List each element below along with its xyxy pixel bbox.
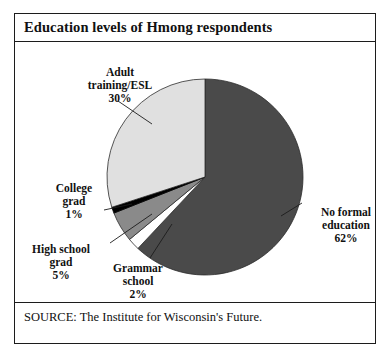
pie-label-value: 30% xyxy=(68,92,172,105)
pie-label-line2: grad xyxy=(16,256,106,269)
pie-label-adult-training-esl: Adult training/ESL 30% xyxy=(68,66,172,105)
pie-label-line1: Grammar xyxy=(96,262,180,275)
pie-label-value: 2% xyxy=(96,288,180,301)
pie-label-high-school-grad: High school grad 5% xyxy=(16,243,106,282)
pie-label-value: 5% xyxy=(16,269,106,282)
pie-label-line1: Adult xyxy=(68,66,172,79)
pie-label-no-formal-education: No formal education 62% xyxy=(306,206,386,245)
pie-label-line2: education xyxy=(306,219,386,232)
pie-label-grammar-school: Grammar school 2% xyxy=(96,262,180,301)
pie-label-college-grad: College grad 1% xyxy=(40,182,108,221)
pie-label-line1: High school xyxy=(16,243,106,256)
pie-label-line2: school xyxy=(96,275,180,288)
pie-label-line2: training/ESL xyxy=(68,79,172,92)
pie-label-value: 62% xyxy=(306,232,386,245)
pie-label-line1: No formal xyxy=(306,206,386,219)
source-note: SOURCE: The Institute for Wisconsin's Fu… xyxy=(24,310,262,325)
pie-label-value: 1% xyxy=(40,208,108,221)
figure-frame: Education levels of Hmong respondents SO… xyxy=(14,13,376,344)
page-title: Education levels of Hmong respondents xyxy=(24,19,272,36)
pie-label-line1: College xyxy=(40,182,108,195)
pie-label-line2: grad xyxy=(40,195,108,208)
title-divider xyxy=(15,41,375,42)
source-divider xyxy=(15,302,375,303)
